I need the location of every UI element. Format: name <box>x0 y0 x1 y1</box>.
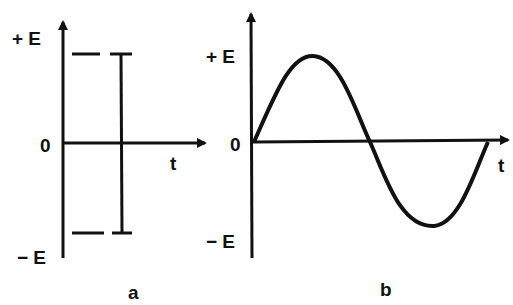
caption-b: b <box>380 279 392 300</box>
label-minus-e-a: − E <box>17 247 46 268</box>
panel-a <box>63 22 205 258</box>
label-zero-a: 0 <box>40 135 51 156</box>
labels-a: + E 0 − E t a <box>12 28 177 303</box>
y-axis-b <box>251 14 252 258</box>
label-plus-e-a: + E <box>12 28 41 49</box>
panel-b <box>251 14 508 258</box>
label-plus-e-b: + E <box>206 46 235 67</box>
x-axis-b <box>252 140 508 142</box>
label-minus-e-b: − E <box>206 231 235 252</box>
transition-bar-a <box>121 54 122 233</box>
label-zero-b: 0 <box>230 134 241 155</box>
label-t-b: t <box>498 155 505 176</box>
waveform-diagram: + E 0 − E t a + E 0 − E t b <box>0 0 513 305</box>
label-t-a: t <box>170 153 177 174</box>
caption-a: a <box>128 282 139 303</box>
